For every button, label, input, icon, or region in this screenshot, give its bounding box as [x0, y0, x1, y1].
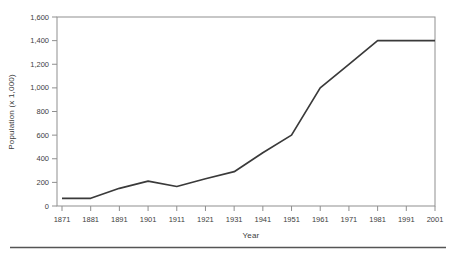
x-tick-label: 1931 — [226, 215, 243, 224]
x-tick-label: 2001 — [427, 215, 444, 224]
x-tick-label: 1911 — [169, 215, 185, 224]
x-tick-label: 1901 — [140, 215, 157, 224]
x-tick-label: 1981 — [369, 215, 386, 224]
x-tick-label: 1871 — [54, 215, 71, 224]
x-tick-label: 1971 — [341, 215, 358, 224]
plot-border — [57, 17, 435, 206]
y-tick-label: 1,600 — [30, 13, 49, 22]
chart-figure: 02004006008001,0001,2001,4001,600 187118… — [0, 0, 455, 256]
x-tick-label: 1961 — [312, 215, 329, 224]
y-tick-label: 1,400 — [30, 36, 49, 45]
y-tick-label: 400 — [36, 154, 49, 163]
x-tick-label: 1991 — [398, 215, 415, 224]
y-tick-label: 200 — [36, 178, 49, 187]
population-line-chart: 02004006008001,0001,2001,4001,600 187118… — [0, 0, 455, 256]
x-tick-label: 1921 — [197, 215, 214, 224]
data-series — [62, 41, 435, 199]
x-tick-label: 1951 — [283, 215, 300, 224]
x-axis-ticks: 1871188118911901191119211931194119511961… — [54, 206, 444, 224]
x-tick-label: 1941 — [255, 215, 272, 224]
y-tick-label: 600 — [36, 131, 49, 140]
y-tick-label: 1,200 — [30, 60, 49, 69]
y-tick-label: 800 — [36, 107, 49, 116]
x-tick-label: 1891 — [111, 215, 128, 224]
population-line — [62, 41, 435, 199]
y-tick-label: 1,000 — [30, 83, 49, 92]
x-tick-label: 1881 — [82, 215, 99, 224]
y-axis-ticks: 02004006008001,0001,2001,4001,600 — [30, 13, 57, 211]
y-tick-label: 0 — [45, 202, 49, 211]
plot-frame — [57, 17, 435, 206]
